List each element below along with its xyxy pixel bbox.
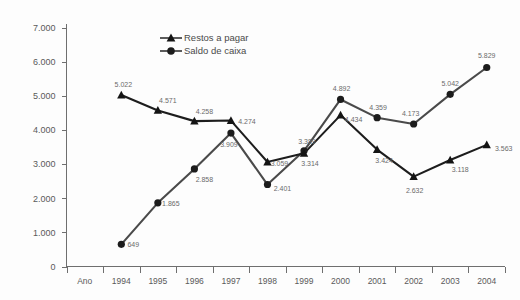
data-point-marker [447, 91, 454, 98]
x-tick-label: 1996 [185, 276, 204, 286]
data-point-marker [191, 165, 198, 172]
data-point-label: 3.563 [495, 145, 513, 152]
data-point-label: 5.022 [115, 81, 133, 88]
chart-legend: Restos a pagarSaldo de caixa [160, 32, 248, 56]
series-group [117, 64, 491, 248]
legend-label: Saldo de caixa [184, 45, 247, 56]
y-tick-label: 6.000 [33, 57, 56, 67]
data-point-marker [410, 120, 417, 127]
data-point-label: 3.059 [271, 160, 289, 167]
data-point-marker [154, 199, 161, 206]
data-point-label: 3.389 [298, 138, 316, 145]
data-point-label: 4.173 [402, 110, 420, 117]
x-axis-origin-label: Ano [77, 276, 92, 286]
chart-container: 01.0002.0003.0004.0005.0006.0007.000 Ano… [0, 0, 520, 300]
circle-marker-icon [167, 47, 175, 55]
data-point-marker [483, 140, 491, 148]
x-tick-label: 2003 [441, 276, 460, 286]
y-tick-label: 4.000 [33, 125, 56, 135]
y-tick-label: 7.000 [33, 23, 56, 33]
data-point-label: 3.118 [452, 166, 469, 173]
data-labels-group: 5.0224.5714.2584.2743.0593.3144.4343.424… [115, 52, 513, 248]
data-point-label: 4.571 [159, 97, 177, 104]
y-tick-label: 3.000 [33, 159, 56, 169]
x-tick-label: 2002 [404, 276, 423, 286]
legend-label: Restos a pagar [184, 32, 248, 43]
y-tick-label: 0 [50, 262, 55, 272]
data-point-label: 4.359 [369, 104, 387, 111]
data-point-label: 4.892 [333, 85, 351, 92]
data-point-label: 2.401 [274, 185, 292, 192]
data-point-marker [374, 114, 381, 121]
y-tick-label: 1.000 [33, 228, 56, 238]
y-tick-label: 2.000 [33, 194, 56, 204]
data-point-label: 5.829 [478, 52, 496, 59]
data-point-marker [227, 129, 234, 136]
data-point-label: 3.909 [220, 141, 238, 148]
data-point-label: 3.314 [301, 160, 319, 167]
data-point-marker [117, 91, 125, 99]
data-point-marker [118, 241, 125, 248]
data-point-label: 1.865 [162, 200, 180, 207]
x-tick-label: 2000 [331, 276, 350, 286]
x-tick-label: 1998 [258, 276, 277, 286]
x-tick-label: 2004 [477, 276, 496, 286]
data-point-marker [337, 96, 344, 103]
data-point-marker [483, 64, 490, 71]
data-point-label: 2.858 [196, 176, 214, 183]
data-point-marker [336, 111, 344, 119]
data-point-marker [264, 181, 271, 188]
data-point-label: 4.274 [238, 118, 256, 125]
line-chart: 01.0002.0003.0004.0005.0006.0007.000 Ano… [0, 0, 520, 300]
x-tick-label: 1994 [112, 276, 131, 286]
data-point-label: 649 [127, 241, 139, 248]
x-tick-label: 2001 [368, 276, 387, 286]
data-point-label: 4.434 [345, 116, 363, 123]
x-tick-label: 1997 [221, 276, 240, 286]
y-tick-label: 5.000 [33, 91, 56, 101]
x-tick-label: 1995 [148, 276, 167, 286]
data-point-label: 2.632 [406, 187, 424, 194]
data-point-label: 5.042 [441, 80, 459, 87]
data-point-label: 3.424 [375, 157, 393, 164]
y-axis-ticks: 01.0002.0003.0004.0005.0006.0007.000 [33, 23, 67, 272]
x-axis-ticks: Ano1994199519961997199819992000200120022… [67, 267, 506, 286]
x-tick-label: 1999 [295, 276, 314, 286]
data-point-label: 4.258 [196, 108, 214, 115]
